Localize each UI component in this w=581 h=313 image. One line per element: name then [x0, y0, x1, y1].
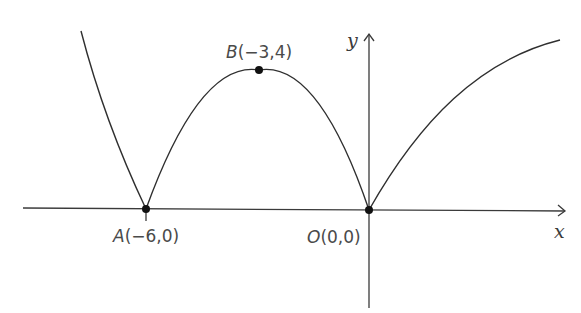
label-a-coords: (−6,0) [125, 226, 180, 246]
label-o-name: O [307, 227, 320, 247]
y-axis-label: y [347, 31, 358, 50]
label-a-name: A [113, 226, 125, 246]
point-o [365, 206, 373, 214]
curve-right-branch [369, 40, 560, 210]
point-a [142, 205, 150, 213]
label-point-a: A(−6,0) [113, 228, 179, 245]
y-axis [364, 34, 374, 308]
label-b-name: B [226, 42, 238, 62]
curve-left-branch [81, 31, 146, 209]
x-axis-label: x [554, 222, 565, 241]
label-o-coords: (0,0) [320, 227, 360, 247]
curve-arch [146, 69, 369, 210]
x-axis [23, 205, 565, 216]
label-point-b: B(−3,4) [226, 44, 292, 61]
point-b [255, 66, 263, 74]
label-b-coords: (−3,4) [238, 42, 293, 62]
label-point-o: O(0,0) [307, 229, 361, 246]
